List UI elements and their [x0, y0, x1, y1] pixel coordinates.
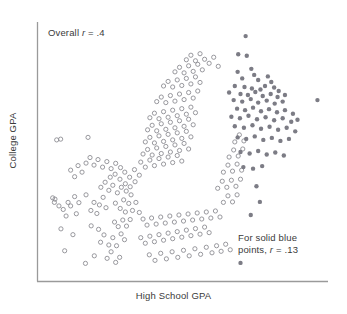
- data-point: [242, 85, 246, 89]
- data-point: [97, 203, 101, 207]
- data-point: [143, 140, 147, 144]
- data-point: [193, 227, 197, 231]
- annotation-solid-prefix: points,: [238, 244, 270, 255]
- data-point: [249, 213, 253, 217]
- data-point: [95, 211, 99, 215]
- data-point: [235, 135, 239, 139]
- data-point: [175, 114, 179, 118]
- data-point: [173, 99, 177, 103]
- data-point: [108, 175, 112, 179]
- data-point: [89, 224, 93, 228]
- data-point: [229, 115, 233, 119]
- data-point: [168, 120, 172, 124]
- data-point: [99, 185, 103, 189]
- data-point: [157, 233, 161, 237]
- data-point: [84, 161, 88, 165]
- data-point: [130, 208, 134, 212]
- data-point: [199, 252, 203, 256]
- data-point: [172, 220, 176, 224]
- data-point: [153, 258, 157, 262]
- data-point: [261, 138, 265, 142]
- data-point: [109, 250, 113, 254]
- data-point: [163, 221, 167, 225]
- data-point: [150, 153, 154, 157]
- data-point: [283, 108, 287, 112]
- data-point: [168, 214, 172, 218]
- data-point: [263, 84, 267, 88]
- data-point: [171, 160, 175, 164]
- data-point: [204, 210, 208, 214]
- data-point: [191, 123, 195, 127]
- data-point: [236, 52, 240, 56]
- data-point: [258, 87, 262, 91]
- data-point: [157, 156, 161, 160]
- data-point: [186, 212, 190, 216]
- annotation-solid-line1: For solid blue: [238, 232, 298, 244]
- data-point: [233, 140, 237, 144]
- data-point: [103, 180, 107, 184]
- data-point: [229, 178, 233, 182]
- data-point: [155, 100, 159, 104]
- data-point: [119, 232, 123, 236]
- data-point: [143, 165, 147, 169]
- data-point: [92, 254, 96, 258]
- data-point: [235, 106, 239, 110]
- data-point: [119, 185, 123, 189]
- data-point: [59, 227, 63, 231]
- data-point: [227, 155, 231, 159]
- data-point: [113, 201, 117, 205]
- data-point: [250, 86, 254, 90]
- data-point: [263, 115, 267, 119]
- data-point: [115, 191, 119, 195]
- data-point: [173, 70, 177, 74]
- data-point: [166, 155, 170, 159]
- data-point: [246, 93, 250, 97]
- data-point: [69, 168, 73, 172]
- data-point: [276, 128, 280, 132]
- data-point: [176, 255, 180, 259]
- data-point: [57, 204, 61, 208]
- data-point: [315, 98, 319, 102]
- data-point: [204, 245, 208, 249]
- data-point: [240, 76, 244, 80]
- data-point: [175, 131, 179, 135]
- data-point: [231, 98, 235, 102]
- data-point: [114, 260, 118, 264]
- data-point: [159, 151, 163, 155]
- data-point: [166, 132, 170, 136]
- plot-canvas: [0, 0, 347, 314]
- data-point: [273, 150, 277, 154]
- data-point: [145, 223, 149, 227]
- data-point: [84, 193, 88, 197]
- data-point: [207, 231, 211, 235]
- data-point: [161, 139, 165, 143]
- data-point: [175, 78, 179, 82]
- data-point: [55, 138, 59, 142]
- data-point: [280, 116, 284, 120]
- data-point: [77, 201, 81, 205]
- data-point: [171, 85, 175, 89]
- data-point: [221, 170, 225, 174]
- data-point: [168, 93, 172, 97]
- data-point: [180, 107, 184, 111]
- data-point: [76, 164, 80, 168]
- data-point: [284, 126, 288, 130]
- data-point: [173, 126, 177, 130]
- data-point: [100, 165, 104, 169]
- data-point: [187, 117, 191, 121]
- data-point: [118, 177, 122, 181]
- data-point: [102, 233, 106, 237]
- data-point: [181, 248, 185, 252]
- data-point: [253, 134, 257, 138]
- data-point: [128, 185, 132, 189]
- data-point: [182, 97, 186, 101]
- data-point: [177, 119, 181, 123]
- data-point: [71, 233, 75, 237]
- data-point: [152, 141, 156, 145]
- data-point: [216, 186, 220, 190]
- data-point: [200, 68, 204, 72]
- data-point: [187, 64, 191, 68]
- data-point: [116, 224, 120, 228]
- data-point: [122, 238, 126, 242]
- data-point: [256, 100, 260, 104]
